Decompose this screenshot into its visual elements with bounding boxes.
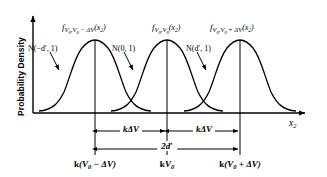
curve-label-center-subscript: V0,V0 bbox=[155, 26, 169, 33]
dimension-label-left-text: kΔV bbox=[123, 124, 139, 134]
curve-label-center-arg: (x2) bbox=[169, 23, 181, 32]
figure-container: Probability Density fV0,V0 − ΔV(x2) fV0,… bbox=[0, 0, 327, 177]
dimension-label-right-text: kΔV bbox=[196, 124, 212, 134]
tick-label-right: k(V0 + ΔV) bbox=[219, 159, 261, 170]
annotation-left-text: N(−d′, 1) bbox=[28, 44, 57, 53]
dimension-label-right: kΔV bbox=[193, 124, 215, 134]
tick-label-left: k(V0 − ΔV) bbox=[74, 159, 116, 170]
dimension-label-total-text: 2d′ bbox=[161, 141, 173, 151]
annotation-center-text: N(0, 1) bbox=[112, 44, 135, 53]
dimension-label-total: 2d′ bbox=[157, 141, 177, 151]
curve-label-right: fV0,V0 + ΔV(x2) bbox=[210, 22, 254, 35]
curve-label-right-subscript: V0,V0 + ΔV bbox=[213, 26, 243, 33]
curve-label-center: fV0,V0(x2) bbox=[152, 22, 180, 35]
curve-label-left: fV0,V0 − ΔV(x2) bbox=[62, 22, 106, 35]
tick-label-center: kV0 bbox=[160, 159, 174, 170]
x-axis-label-sub: 2 bbox=[293, 122, 296, 129]
annotation-center: N(0, 1) bbox=[112, 44, 135, 53]
curve-label-right-arg: (x2) bbox=[242, 23, 254, 32]
dimension-label-left: kΔV bbox=[120, 124, 142, 134]
annotation-left: N(−d′, 1) bbox=[28, 44, 57, 53]
mean-lines bbox=[95, 40, 240, 155]
curve-label-left-arg: (x2) bbox=[94, 23, 106, 32]
annotation-right: N(d′, 1) bbox=[186, 44, 211, 53]
leader-right bbox=[197, 52, 206, 70]
curve-label-left-subscript: V0,V0 − ΔV bbox=[65, 26, 95, 33]
y-axis-label: Probability Density bbox=[16, 37, 26, 116]
annotation-right-text: N(d′, 1) bbox=[186, 44, 211, 53]
leader-left bbox=[50, 52, 59, 70]
x-axis-label: x2 bbox=[289, 118, 296, 129]
leader-center bbox=[124, 52, 133, 70]
